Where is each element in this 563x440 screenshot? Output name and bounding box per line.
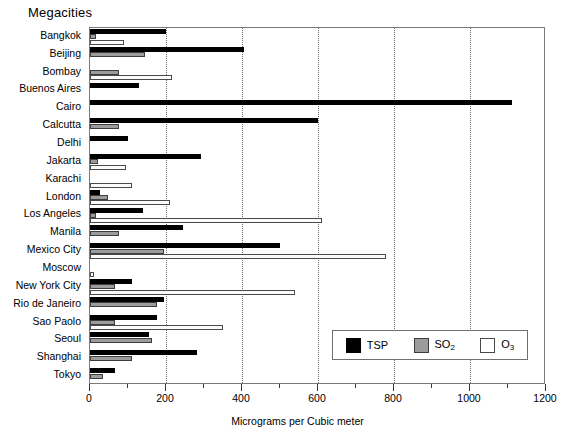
- x-tick-1100: [507, 384, 508, 388]
- x-tick-900: [431, 384, 432, 388]
- bar-tsp: [90, 190, 100, 195]
- bar-so2: [90, 52, 145, 57]
- x-tick-label-800: 800: [384, 392, 402, 404]
- x-tick-1000: [469, 384, 470, 391]
- x-tick-300: [203, 384, 204, 388]
- bar-tsp: [90, 118, 318, 123]
- bar-so2: [90, 284, 115, 289]
- x-tick-200: [165, 384, 166, 391]
- city-group: [90, 367, 544, 384]
- y-axis-label-beijing: Beijing: [49, 48, 81, 59]
- bar-so2: [90, 195, 108, 200]
- city-group: [90, 171, 544, 189]
- city-group: [90, 278, 544, 296]
- city-group: [90, 153, 544, 171]
- bar-o3: [90, 290, 295, 295]
- bar-tsp: [90, 279, 132, 284]
- y-axis-label-cairo: Cairo: [56, 101, 81, 112]
- x-tick-400: [241, 384, 242, 391]
- x-tick-700: [355, 384, 356, 388]
- bar-so2: [90, 249, 164, 254]
- bar-tsp: [90, 243, 280, 248]
- bar-so2: [90, 213, 96, 218]
- city-group: [90, 117, 544, 135]
- y-axis-label-sao-paolo: Sao Paolo: [33, 316, 81, 327]
- x-tick-500: [279, 384, 280, 388]
- bar-o3: [90, 40, 124, 45]
- legend: TSPSO2O3: [332, 330, 528, 360]
- x-axis: 020040060080010001200: [89, 384, 545, 385]
- legend-item-o3[interactable]: O3: [480, 338, 514, 353]
- legend-label: TSP: [367, 339, 388, 351]
- city-group: [90, 99, 544, 117]
- bar-so2: [90, 70, 119, 75]
- y-axis-label-manila: Manila: [50, 226, 81, 237]
- x-tick-label-600: 600: [308, 392, 326, 404]
- y-axis-label-tokyo: Tokyo: [54, 369, 81, 380]
- city-group: [90, 224, 544, 242]
- y-axis-label-delhi: Delhi: [57, 137, 81, 148]
- bar-tsp: [90, 368, 115, 373]
- city-group: [90, 28, 544, 46]
- legend-swatch-o3-icon: [480, 338, 495, 353]
- y-axis-label-new-york-city: New York City: [16, 280, 81, 291]
- chart-root: Megacities BangkokBeijingBombayBuenos Ai…: [0, 0, 563, 440]
- x-axis-title: Micrograms per Cubic meter: [0, 415, 563, 427]
- page-title: Megacities: [28, 5, 92, 20]
- bar-so2: [90, 338, 152, 343]
- bar-o3: [90, 325, 223, 330]
- x-tick-label-0: 0: [86, 392, 92, 404]
- legend-item-so2[interactable]: SO2: [414, 338, 455, 353]
- x-tick-1200: [545, 384, 546, 391]
- city-group: [90, 46, 544, 64]
- x-tick-800: [393, 384, 394, 391]
- bar-o3: [90, 183, 132, 188]
- city-group: [90, 82, 544, 100]
- city-group: [90, 189, 544, 207]
- x-tick-label-400: 400: [232, 392, 250, 404]
- y-axis-label-seoul: Seoul: [54, 333, 81, 344]
- city-group: [90, 135, 544, 153]
- bar-tsp: [90, 350, 197, 355]
- bar-so2: [90, 231, 119, 236]
- city-group: [90, 296, 544, 314]
- y-axis-label-karachi: Karachi: [45, 173, 81, 184]
- legend-swatch-tsp-icon: [346, 338, 361, 353]
- bar-o3: [90, 165, 126, 170]
- bar-tsp: [90, 315, 157, 320]
- bar-tsp: [90, 297, 164, 302]
- y-axis-label-jakarta: Jakarta: [47, 155, 81, 166]
- y-axis-label-los-angeles: Los Angeles: [24, 208, 81, 219]
- y-axis-label-bombay: Bombay: [42, 66, 81, 77]
- bar-tsp: [90, 225, 183, 230]
- x-tick-600: [317, 384, 318, 391]
- y-axis-label-bangkok: Bangkok: [40, 30, 81, 41]
- bar-so2: [90, 374, 103, 379]
- y-axis-label-moscow: Moscow: [42, 262, 81, 273]
- bar-tsp: [90, 100, 512, 105]
- bar-so2: [90, 34, 96, 39]
- bar-tsp: [90, 208, 143, 213]
- y-axis-label-rio-de-janeiro: Rio de Janeiro: [13, 298, 81, 309]
- bar-so2: [90, 356, 132, 361]
- bar-tsp: [90, 136, 128, 141]
- x-tick-label-1000: 1000: [457, 392, 480, 404]
- legend-item-tsp[interactable]: TSP: [346, 338, 388, 353]
- bar-o3: [90, 200, 170, 205]
- city-group: [90, 64, 544, 82]
- city-group: [90, 207, 544, 225]
- bar-o3: [90, 218, 322, 223]
- bar-o3: [90, 254, 386, 259]
- bar-o3: [90, 272, 94, 277]
- y-axis-labels: BangkokBeijingBombayBuenos AiresCairoCal…: [0, 27, 86, 384]
- bar-tsp: [90, 47, 244, 52]
- y-axis-label-calcutta: Calcutta: [42, 119, 81, 130]
- x-tick-label-200: 200: [156, 392, 174, 404]
- y-axis-label-london: London: [46, 191, 81, 202]
- legend-label: O3: [501, 338, 514, 352]
- bar-tsp: [90, 29, 166, 34]
- bar-so2: [90, 302, 157, 307]
- bar-so2: [90, 124, 119, 129]
- bar-so2: [90, 159, 98, 164]
- y-axis-label-mexico-city: Mexico City: [27, 244, 81, 255]
